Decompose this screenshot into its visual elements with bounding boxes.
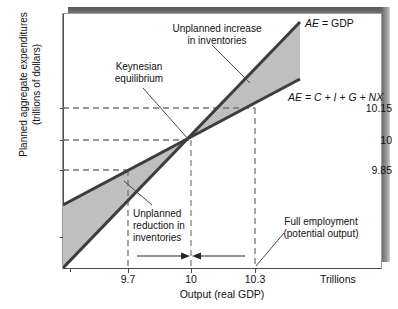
- annotation-unplanned-reduction-line2: reduction in: [133, 220, 185, 232]
- annotation-unplanned-increase-line1: Unplanned increase: [153, 23, 281, 35]
- series-label-ae-gdp-rest: = GDP: [319, 17, 354, 29]
- series-label-ae-components: AE = C + I + G + NX: [288, 91, 383, 103]
- series-label-ae-gdp-symbol: AE: [305, 17, 319, 29]
- annotation-unplanned-reduction-line3: inventories: [133, 232, 185, 244]
- series-label-ae-components-symbol: AE: [288, 91, 302, 103]
- series-line-ae-components: [63, 79, 300, 205]
- annotation-full-employment-line2: (potential output): [266, 228, 376, 240]
- annotation-unplanned-increase-line2: in inventories: [153, 35, 281, 47]
- series-label-ae-components-rest: = C + I + G + NX: [302, 91, 383, 103]
- annotation-keynesian-equilibrium: Keynesian equilibrium: [96, 61, 182, 85]
- chart-figure: 10.15 10 9.85 9.7 10 10.3 Planned aggreg…: [0, 0, 398, 309]
- annotation-keynesian-equilibrium-line1: Keynesian: [96, 61, 182, 73]
- annotation-unplanned-reduction: Unplanned reduction in inventories: [133, 208, 185, 244]
- leader-keynesian-equilibrium: [143, 88, 189, 140]
- annotation-full-employment-line1: Full employment: [266, 216, 376, 228]
- annotation-unplanned-increase: Unplanned increase in inventories: [153, 23, 281, 47]
- series-label-ae-gdp: AE = GDP: [305, 17, 354, 29]
- annotation-unplanned-reduction-line1: Unplanned: [133, 208, 185, 220]
- annotation-keynesian-equilibrium-line2: equilibrium: [96, 73, 182, 85]
- annotation-full-employment: Full employment (potential output): [266, 216, 376, 240]
- leader-unplanned-increase: [212, 45, 250, 83]
